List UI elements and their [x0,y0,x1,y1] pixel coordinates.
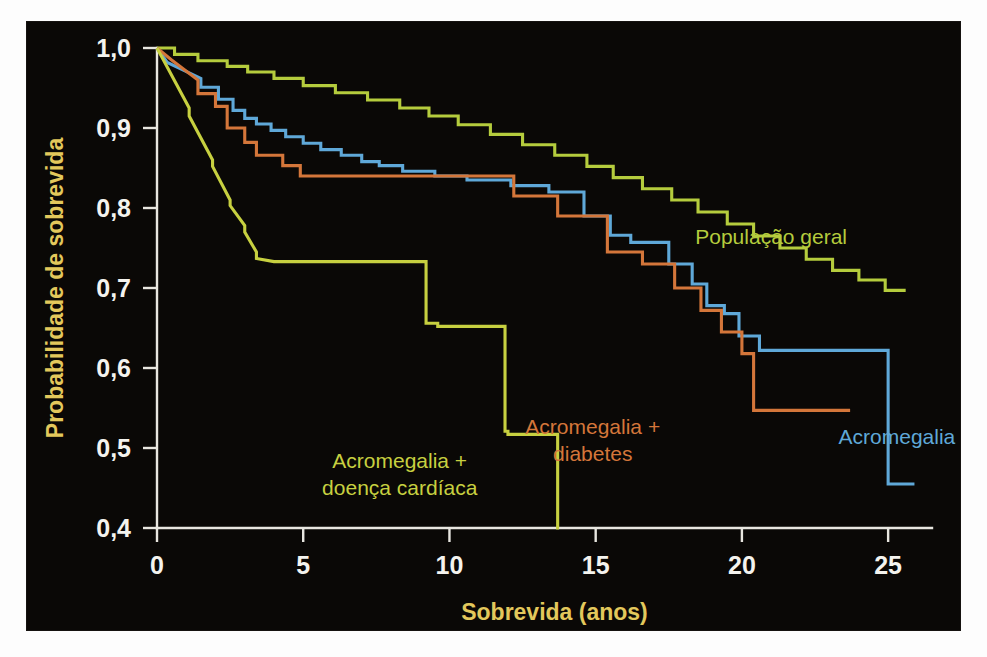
y-tick-label: 0,7 [96,274,131,302]
y-tick-label: 0,9 [96,114,131,142]
survival-chart-svg: 0,40,50,60,70,80,91,00510152025Sobrevida… [27,22,960,630]
curve-label-2: Acromegalia +diabetes [525,415,660,465]
curve-label-line: Acromegalia + [332,449,467,472]
y-tick-label: 0,4 [96,514,131,542]
y-axis-title: Probabilidade de sobrevida [42,138,68,439]
chart-panel: 0,40,50,60,70,80,91,00510152025Sobrevida… [27,22,960,630]
axes-group [157,48,932,528]
curve-label-line: População geral [695,225,847,248]
y-tick-label: 0,6 [96,354,131,382]
curve-label-1: Acromegalia [839,425,956,448]
curve-label-0: População geral [695,225,847,248]
x-axis-title: Sobrevida (anos) [461,599,648,625]
curve-label-line: diabetes [553,442,632,465]
curve-label-line: doença cardíaca [322,476,478,499]
x-tick-label: 5 [296,551,310,579]
figure-root: 0,40,50,60,70,80,91,00510152025Sobrevida… [0,0,987,657]
curve-label-line: Acromegalia + [525,415,660,438]
y-tick-label: 0,8 [96,194,131,222]
x-tick-label: 0 [150,551,164,579]
y-axis-ticks: 0,40,50,60,70,80,91,0 [96,34,157,542]
x-tick-label: 15 [582,551,610,579]
curve-0 [157,48,906,290]
x-tick-label: 10 [436,551,464,579]
x-tick-label: 25 [874,551,902,579]
x-tick-label: 20 [728,551,756,579]
x-axis-ticks: 0510152025 [150,528,902,579]
curve-label-3: Acromegalia +doença cardíaca [322,449,478,499]
y-tick-label: 1,0 [96,34,131,62]
curve-label-line: Acromegalia [839,425,956,448]
y-tick-label: 0,5 [96,434,131,462]
